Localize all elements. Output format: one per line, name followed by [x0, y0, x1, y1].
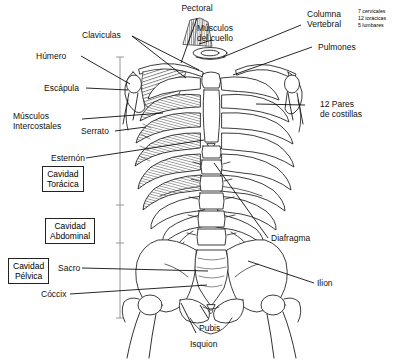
- label-musculos-intercostales: Músculos Intercostales: [13, 112, 61, 131]
- label-pubis: Pubis: [199, 324, 220, 334]
- label-coccix: Cóccix: [41, 290, 67, 300]
- label-pares-de-costillas: 12 Pares de costillas: [320, 100, 362, 119]
- label-pectoral: Pectoral: [161, 4, 233, 14]
- label-diafragma: Diafragma: [271, 234, 310, 244]
- label-columna-vertebral: Columna Vertebral: [307, 10, 341, 29]
- cervical-spine: [193, 48, 227, 60]
- sternum-bone: [202, 72, 221, 148]
- label-vertebrae-toracicas: 12 torácicas: [358, 15, 386, 21]
- label-sacro: Sacro: [58, 264, 80, 274]
- label-cavidad-toracica: Cavidad Torácica: [42, 166, 84, 192]
- label-vertebrae-lumbares: 5 lumbares: [358, 22, 384, 28]
- label-escapula: Escápula: [44, 84, 79, 94]
- label-serrato: Serrato: [81, 127, 109, 137]
- label-esternon: Esternón: [51, 154, 85, 164]
- label-ilion: Ilion: [317, 279, 333, 289]
- label-pulmones: Pulmones: [318, 43, 356, 53]
- label-cavidad-pelvica: Cavidad Pélvica: [8, 258, 49, 284]
- label-vertebrae-cervicales: 7 cervicales: [358, 8, 385, 14]
- label-claviculas: Claviculas: [82, 31, 121, 41]
- label-humero: Húmero: [36, 52, 66, 62]
- label-isquion: Isquion: [190, 340, 217, 350]
- label-musculos-del-cuello: Músculos del cuello: [197, 24, 233, 43]
- label-cavidad-abdominal: Cavidad Abdominal: [45, 218, 95, 244]
